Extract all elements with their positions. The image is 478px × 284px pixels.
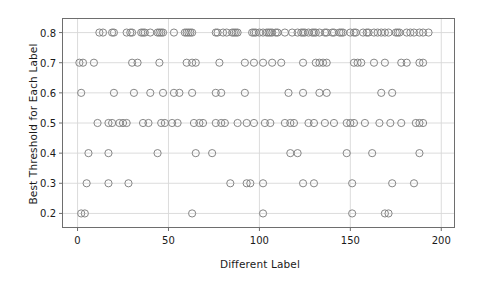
data-point xyxy=(250,119,257,126)
data-point xyxy=(241,59,248,66)
x-tick-label: 50 xyxy=(162,235,175,246)
y-tick-label: 0.6 xyxy=(40,87,56,98)
data-point xyxy=(241,89,248,96)
data-point xyxy=(338,29,345,36)
x-tick-label: 0 xyxy=(74,235,80,246)
data-point xyxy=(316,89,323,96)
data-point xyxy=(299,180,306,187)
data-point xyxy=(78,89,85,96)
data-point xyxy=(83,180,90,187)
data-point xyxy=(109,29,116,36)
y-tick-label: 0.3 xyxy=(40,178,56,189)
data-point xyxy=(349,210,356,217)
data-point xyxy=(330,119,337,126)
data-point xyxy=(227,180,234,187)
data-point xyxy=(259,180,266,187)
data-point xyxy=(381,59,388,66)
data-point xyxy=(94,119,101,126)
data-point xyxy=(192,150,199,157)
plot-area: 0.20.30.40.50.60.70.8050100150200 xyxy=(62,18,455,228)
data-point xyxy=(281,29,288,36)
data-point xyxy=(425,29,432,36)
data-point xyxy=(189,210,196,217)
data-point xyxy=(209,150,216,157)
data-point xyxy=(278,59,285,66)
data-point xyxy=(410,180,417,187)
data-point xyxy=(299,59,306,66)
data-point xyxy=(170,29,177,36)
data-point xyxy=(274,29,281,36)
data-point xyxy=(159,89,166,96)
data-point xyxy=(85,150,92,157)
y-tick-label: 0.2 xyxy=(40,208,56,219)
data-point xyxy=(134,59,141,66)
data-point xyxy=(243,119,250,126)
data-point xyxy=(389,89,396,96)
y-tick-label: 0.7 xyxy=(40,57,56,68)
data-point xyxy=(370,59,377,66)
data-point xyxy=(403,59,410,66)
data-point xyxy=(287,150,294,157)
data-point xyxy=(310,180,317,187)
x-axis-title: Different Label xyxy=(60,258,460,270)
data-points-layer xyxy=(63,19,454,227)
data-point xyxy=(90,59,97,66)
data-point xyxy=(218,89,225,96)
data-point xyxy=(130,89,137,96)
data-point xyxy=(269,59,276,66)
data-point xyxy=(299,89,306,96)
data-point xyxy=(189,89,196,96)
data-point xyxy=(139,29,146,36)
data-point xyxy=(154,150,161,157)
y-tick-label: 0.4 xyxy=(40,148,56,159)
data-point xyxy=(352,29,359,36)
scatter-plot-figure: Best Threshold for Each Label Different … xyxy=(0,0,478,284)
data-point xyxy=(285,89,292,96)
data-point xyxy=(145,119,152,126)
data-point xyxy=(174,119,181,126)
y-tick-label: 0.8 xyxy=(40,27,56,38)
data-point xyxy=(323,89,330,96)
data-point xyxy=(125,180,132,187)
data-point xyxy=(105,180,112,187)
data-point xyxy=(110,89,117,96)
x-tick-label: 150 xyxy=(341,235,360,246)
x-tick-label: 100 xyxy=(250,235,269,246)
data-point xyxy=(416,150,423,157)
data-point xyxy=(156,59,163,66)
data-point xyxy=(129,29,136,36)
y-tick-label: 0.5 xyxy=(40,118,56,129)
data-point xyxy=(250,59,257,66)
data-point xyxy=(349,180,356,187)
data-point xyxy=(212,29,219,36)
data-point xyxy=(343,150,350,157)
data-point xyxy=(376,119,383,126)
data-point xyxy=(147,29,154,36)
data-point xyxy=(321,29,328,36)
data-point xyxy=(147,89,154,96)
data-point xyxy=(267,119,274,126)
data-point xyxy=(216,59,223,66)
data-point xyxy=(259,210,266,217)
x-tick-label: 200 xyxy=(432,235,451,246)
data-point xyxy=(310,119,317,126)
data-point xyxy=(329,29,336,36)
y-axis-title: Best Threshold for Each Label xyxy=(27,9,39,239)
data-point xyxy=(369,150,376,157)
data-point xyxy=(321,119,328,126)
data-point xyxy=(259,59,266,66)
data-point xyxy=(110,29,117,36)
data-point xyxy=(294,150,301,157)
data-point xyxy=(387,119,394,126)
data-point xyxy=(176,89,183,96)
data-point xyxy=(105,150,112,157)
data-point xyxy=(398,119,405,126)
data-point xyxy=(394,29,401,36)
data-point xyxy=(378,89,385,96)
data-point xyxy=(234,119,241,126)
data-point xyxy=(361,119,368,126)
data-point xyxy=(389,180,396,187)
